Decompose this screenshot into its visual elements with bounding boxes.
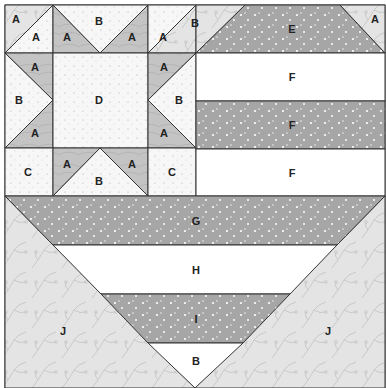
heart-flag-quilt-block: A A A B A A B A B A D A B A C A B A C E … (0, 0, 386, 388)
label: E (288, 23, 295, 35)
label: J (325, 325, 331, 337)
label: C (168, 166, 176, 178)
label: A (31, 127, 39, 139)
label: A (12, 13, 20, 25)
label: A (371, 13, 379, 25)
label: A (159, 31, 167, 43)
label: A (160, 61, 168, 73)
label: I (194, 313, 197, 325)
label: A (63, 158, 71, 170)
label: F (289, 71, 296, 83)
label: A (31, 61, 39, 73)
label: H (192, 264, 200, 276)
label: D (95, 94, 103, 106)
label: A (63, 31, 71, 43)
label: A (32, 31, 40, 43)
label: B (175, 94, 183, 106)
label: B (95, 15, 103, 27)
label: A (128, 31, 136, 43)
label: A (128, 158, 136, 170)
label: G (192, 215, 201, 227)
label: C (24, 166, 32, 178)
label: F (289, 119, 296, 131)
label: J (60, 325, 66, 337)
label: B (192, 355, 200, 367)
label: B (95, 175, 103, 187)
quilt-diagram: A A A B A A B A B A D A B A C A B A C E … (0, 0, 386, 388)
label: F (289, 167, 296, 179)
label: B (15, 94, 23, 106)
label: B (191, 17, 199, 29)
label: A (160, 127, 168, 139)
